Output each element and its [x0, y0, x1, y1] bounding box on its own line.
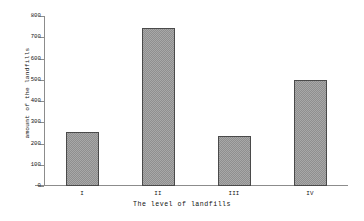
bar — [294, 80, 327, 186]
y-tick-label: 700 — [31, 34, 41, 40]
y-tick-label: 0 — [38, 183, 41, 189]
x-tick-label: III — [228, 190, 239, 197]
y-tick-label: 100 — [31, 162, 41, 168]
y-tick-label: 400 — [31, 98, 41, 104]
bar — [218, 136, 251, 186]
x-tick-label: I — [80, 190, 84, 197]
y-tick-label: 200 — [31, 141, 41, 147]
plot-area: 0100200300400500600700800 IIIIIIIV — [44, 16, 348, 186]
x-tick-label: II — [154, 190, 161, 197]
bar — [142, 28, 175, 186]
y-tick-label: 800 — [31, 13, 41, 19]
x-tick-label: IV — [306, 190, 313, 197]
y-tick-label: 300 — [31, 119, 41, 125]
y-tick-label: 600 — [31, 56, 41, 62]
bars-layer — [44, 16, 348, 186]
y-tick-label: 500 — [31, 77, 41, 83]
bar-chart: amount of the landfills 0100200300400500… — [0, 0, 364, 221]
x-axis-title: The level of landfills — [0, 200, 364, 209]
y-axis-title: amount of the landfills — [22, 0, 34, 186]
bar — [66, 132, 99, 186]
